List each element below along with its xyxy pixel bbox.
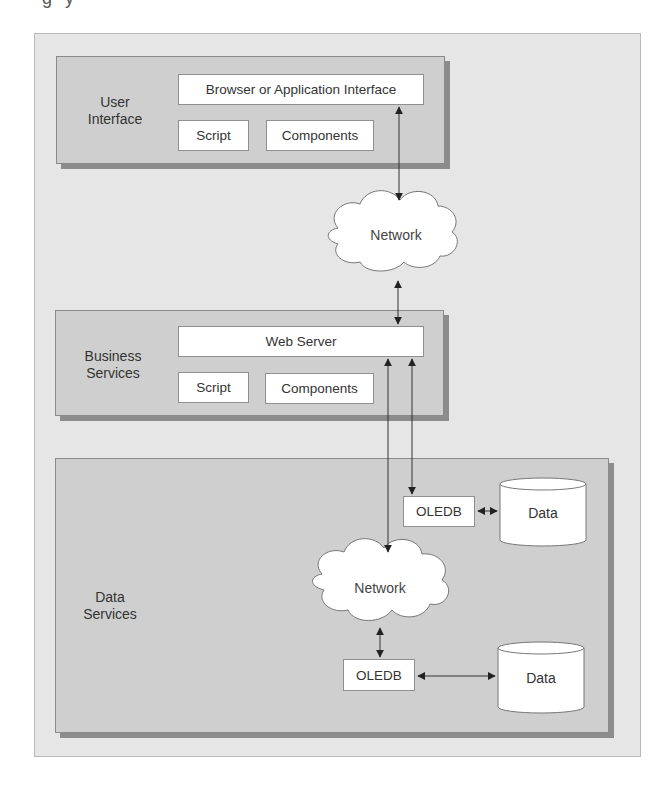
- data-bottom-label: Data: [498, 670, 584, 686]
- network-bottom-label: Network: [334, 580, 426, 596]
- data-top-label: Data: [500, 505, 586, 521]
- network-top-label: Network: [350, 227, 442, 243]
